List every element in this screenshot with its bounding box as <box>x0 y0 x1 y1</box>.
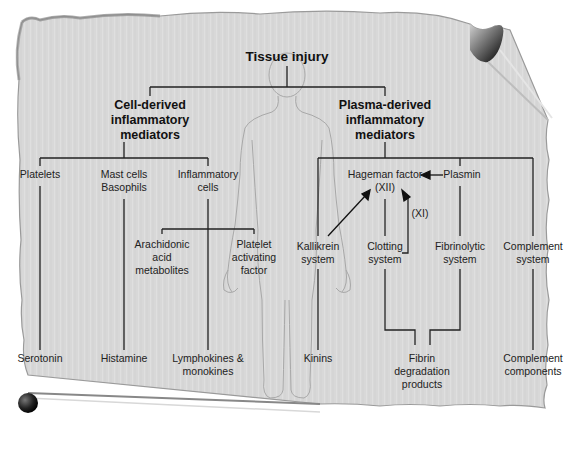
node-kallikrein-system: Kallikrein system <box>297 240 340 266</box>
branch-title-plasma-derived: Plasma-derived inflammatory mediators <box>339 98 431 143</box>
node-serotonin: Serotonin <box>18 352 63 365</box>
node-kinins: Kinins <box>304 352 333 365</box>
node-mast-cells-basophils: Mast cells Basophils <box>101 168 148 194</box>
node-plasmin: Plasmin <box>443 168 480 181</box>
curled-corner-bottom-left <box>18 393 38 413</box>
node-platelets: Platelets <box>20 168 60 181</box>
paper-background <box>0 0 584 464</box>
root-node-tissue-injury: Tissue injury <box>245 49 328 64</box>
node-fibrinolytic-system: Fibrinolytic system <box>435 240 485 266</box>
paper-sheet <box>17 11 549 408</box>
node-lymphokines-monokines: Lymphokines & monokines <box>172 352 243 378</box>
node-fibrin-degradation-products: Fibrin degradation products <box>394 352 449 391</box>
node-complement-components: Complement components <box>503 352 563 378</box>
node-arachidonic-acid-metabolites: Arachidonic acid metabolites <box>135 238 190 277</box>
label-factor-xi: (XI) <box>412 207 429 220</box>
branch-title-cell-derived: Cell-derived inflammatory mediators <box>111 98 190 143</box>
node-complement-system: Complement system <box>503 240 563 266</box>
node-hageman-factor: Hageman factor (XII) <box>348 168 423 194</box>
diagram-canvas: Tissue injury Cell-derived inflammatory … <box>0 0 584 464</box>
node-histamine: Histamine <box>101 352 148 365</box>
node-clotting-system: Clotting system <box>367 240 403 266</box>
node-platelet-activating-factor: Platelet activating factor <box>232 238 276 277</box>
node-inflammatory-cells: Inflammatory cells <box>178 168 239 194</box>
